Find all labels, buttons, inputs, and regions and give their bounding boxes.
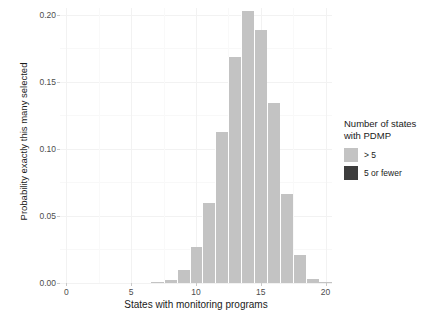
x-axis-tick-label: 15 [256, 287, 265, 297]
histogram-bar [228, 57, 241, 283]
y-axis-title: Probability exactly this many selected [18, 7, 29, 277]
y-axis-tick-label: 0.05 [39, 211, 56, 221]
x-axis-tick-mark [261, 283, 262, 286]
legend-title: Number of states with PDMP [344, 118, 440, 141]
histogram-bar [190, 247, 203, 283]
y-axis-tick-label: 0.15 [39, 77, 56, 87]
legend-label: > 5 [364, 150, 376, 160]
x-axis-tick-label: 0 [64, 287, 69, 297]
legend-swatch [344, 148, 358, 162]
legend-label: 5 or fewer [364, 168, 402, 178]
histogram-bar [267, 103, 280, 283]
x-axis-tick-mark [66, 283, 67, 286]
histogram-bar [177, 270, 190, 283]
y-axis-tick-label: 0.00 [39, 278, 56, 288]
y-axis-tick-mark [57, 149, 60, 150]
x-axis-tick-mark [131, 283, 132, 286]
y-axis-tick-label: 0.20 [39, 10, 56, 20]
legend: Number of states with PDMP > 55 or fewer [344, 118, 440, 182]
legend-item[interactable]: > 5 [344, 146, 440, 163]
y-axis-tick-mark [57, 82, 60, 83]
y-axis-tick-mark [57, 15, 60, 16]
histogram-bar [164, 280, 177, 283]
histogram-bar [215, 132, 228, 283]
histogram-bars [60, 8, 332, 283]
legend-items: > 55 or fewer [344, 146, 440, 181]
legend-item[interactable]: 5 or fewer [344, 164, 440, 181]
histogram-bar [151, 282, 164, 283]
x-axis-title: States with monitoring programs [60, 299, 332, 310]
y-axis-tick-label: 0.10 [39, 144, 56, 154]
histogram-bar [202, 203, 215, 283]
x-axis-tick-label: 20 [321, 287, 330, 297]
histogram-bar [306, 279, 319, 283]
x-axis-tick-mark [326, 283, 327, 286]
histogram-bar [241, 11, 254, 283]
histogram-bar [280, 194, 293, 283]
legend-swatch [344, 166, 358, 180]
x-axis-tick-labels: 05101520 [60, 287, 332, 299]
plot-panel [60, 8, 332, 283]
chart-container: 0.000.050.100.150.20 05101520 States wit… [0, 0, 443, 324]
histogram-bar [254, 30, 267, 283]
x-axis-tick-mark [196, 283, 197, 286]
x-axis-tick-label: 5 [129, 287, 134, 297]
y-axis-tick-mark [57, 216, 60, 217]
histogram-bar [293, 255, 306, 283]
y-axis-title-wrapper: Probability exactly this many selected [0, 0, 22, 290]
x-axis-tick-label: 10 [191, 287, 200, 297]
y-axis-tick-mark [57, 283, 60, 284]
